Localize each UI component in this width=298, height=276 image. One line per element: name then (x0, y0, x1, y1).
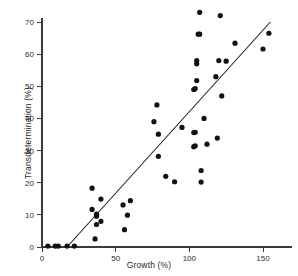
data-point (219, 93, 224, 98)
data-point (215, 135, 220, 140)
y-tick-label: 0 (30, 243, 35, 252)
data-point (197, 10, 202, 15)
data-point (172, 179, 177, 184)
data-point (193, 143, 198, 148)
data-points (45, 10, 271, 249)
data-point (154, 102, 159, 107)
data-point (125, 213, 130, 218)
data-point (122, 227, 127, 232)
plot-canvas: 010203040506070 050100150 (0, 0, 298, 276)
y-tick-label: 70 (25, 18, 34, 27)
data-point (260, 46, 265, 51)
data-point (94, 214, 99, 219)
data-point (120, 202, 125, 207)
data-point (128, 198, 133, 203)
data-point (163, 174, 168, 179)
data-point (194, 78, 199, 83)
data-point (94, 222, 99, 227)
data-point (216, 58, 221, 63)
data-point (179, 125, 184, 130)
data-point (232, 41, 237, 46)
data-point (213, 74, 218, 79)
data-point (89, 207, 94, 212)
data-point (98, 219, 103, 224)
data-point (193, 130, 198, 135)
data-point (45, 243, 50, 248)
data-point (72, 243, 77, 248)
data-point (156, 154, 161, 159)
data-point (98, 197, 103, 202)
data-point (56, 243, 61, 248)
data-point (151, 119, 156, 124)
data-point (197, 32, 202, 37)
data-point (194, 58, 199, 63)
data-point (218, 13, 223, 18)
data-point (193, 86, 198, 91)
data-point (204, 142, 209, 147)
data-point (156, 132, 161, 137)
x-axis-title: Growth (%) (0, 260, 298, 270)
data-point (199, 168, 204, 173)
data-point (89, 186, 94, 191)
data-point (224, 59, 229, 64)
scatter-plot-figure: 010203040506070 050100150 Transdetermina… (0, 0, 298, 276)
data-point (199, 179, 204, 184)
data-point (92, 236, 97, 241)
data-point (266, 31, 271, 36)
y-axis-title: Transdetermination (%) (23, 53, 33, 213)
data-point (201, 116, 206, 121)
data-point (64, 243, 69, 248)
